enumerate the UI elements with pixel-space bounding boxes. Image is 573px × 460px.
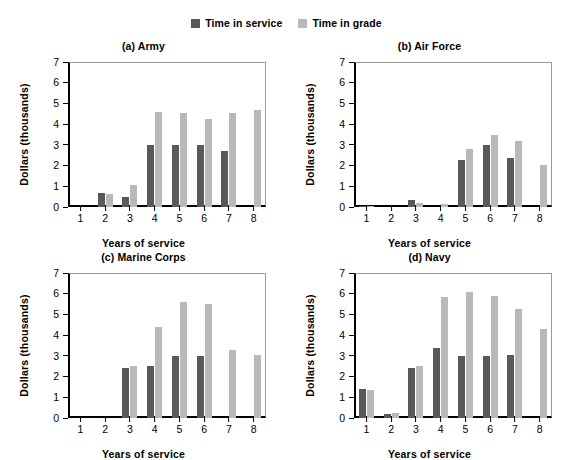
y-tick-mark (349, 124, 354, 125)
x-axis-tick: 6 (487, 207, 493, 224)
x-axis-tick: 2 (388, 207, 394, 224)
x-axis-tick: 6 (201, 207, 207, 224)
x-axis-tick: 2 (388, 418, 394, 435)
x-axis-tick: 7 (512, 418, 518, 435)
bar (254, 110, 261, 207)
x-tick-label: 5 (462, 213, 468, 224)
bar (359, 389, 366, 418)
x-tick-label: 4 (438, 424, 444, 435)
y-tick-label: 1 (53, 181, 63, 192)
x-axis-tick: 5 (176, 418, 182, 435)
x-tick-mark (539, 207, 540, 211)
y-tick-label: 1 (339, 181, 349, 192)
bar (540, 165, 547, 207)
x-axis-label: Years of service (286, 448, 573, 460)
panel-army: (a) ArmyDollars (thousands)0123456712345… (0, 40, 287, 245)
x-tick-mark (154, 418, 155, 422)
y-axis-label: Dollars (thousands) (18, 62, 30, 207)
x-tick-mark (415, 207, 416, 211)
y-tick-mark (63, 273, 68, 274)
y-tick-mark (349, 82, 354, 83)
x-tick-mark (391, 207, 392, 211)
y-tick-label: 5 (339, 98, 349, 109)
x-tick-mark (129, 418, 130, 422)
y-tick-mark (349, 62, 354, 63)
x-tick-mark (80, 418, 81, 422)
y-tick-label: 5 (53, 98, 63, 109)
chart-legend: Time in service Time in grade (0, 18, 573, 29)
bar (416, 366, 423, 418)
x-tick-mark (465, 418, 466, 422)
x-tick-mark (415, 418, 416, 422)
y-tick-label: 1 (339, 392, 349, 403)
y-tick-mark (349, 355, 354, 356)
bar (433, 348, 440, 418)
x-tick-mark (539, 418, 540, 422)
x-axis-tick: 6 (201, 418, 207, 435)
y-axis-label: Dollars (thousands) (304, 273, 316, 418)
x-axis-tick: 4 (438, 207, 444, 224)
bar (441, 204, 448, 207)
y-tick-label: 0 (339, 413, 349, 424)
x-tick-mark (179, 418, 180, 422)
x-tick-mark (253, 418, 254, 422)
bar (515, 141, 522, 207)
bar (221, 151, 228, 207)
x-tick-label: 4 (152, 213, 158, 224)
x-tick-mark (465, 207, 466, 211)
bar (180, 302, 187, 418)
legend-swatch-icon (298, 19, 307, 28)
legend-swatch-icon (191, 19, 200, 28)
x-axis-tick: 5 (462, 207, 468, 224)
y-tick-mark (349, 293, 354, 294)
bar (458, 160, 465, 207)
y-tick-mark (63, 397, 68, 398)
bar (122, 197, 129, 207)
bar (515, 309, 522, 418)
legend-label: Time in service (205, 18, 282, 29)
y-tick-label: 3 (53, 140, 63, 151)
x-tick-label: 8 (251, 424, 257, 435)
bar (197, 356, 204, 418)
y-tick-label: 3 (339, 351, 349, 362)
bar (466, 149, 473, 207)
y-tick-label: 2 (339, 371, 349, 382)
x-tick-label: 3 (127, 213, 133, 224)
panel-title: (d) Navy (286, 251, 573, 263)
x-tick-mark (490, 207, 491, 211)
y-tick-mark (349, 397, 354, 398)
x-axis-tick: 8 (251, 207, 257, 224)
x-tick-label: 3 (413, 213, 419, 224)
y-tick-mark (63, 418, 68, 419)
x-axis-label: Years of service (0, 237, 287, 249)
bar (483, 356, 490, 418)
y-tick-label: 0 (53, 202, 63, 213)
x-axis-tick: 8 (537, 418, 543, 435)
y-tick-mark (63, 103, 68, 104)
x-tick-mark (228, 207, 229, 211)
x-tick-mark (366, 418, 367, 422)
bar (466, 292, 473, 418)
x-axis-tick: 1 (363, 418, 369, 435)
y-tick-label: 1 (53, 392, 63, 403)
x-tick-label: 2 (388, 424, 394, 435)
y-axis-label: Dollars (thousands) (18, 273, 30, 418)
y-tick-mark (63, 144, 68, 145)
y-tick-label: 4 (339, 330, 349, 341)
bar (408, 368, 415, 418)
plot-area: 0123456712345678 (68, 273, 266, 418)
y-tick-mark (63, 207, 68, 208)
x-axis-tick: 1 (77, 207, 83, 224)
panel-title: (a) Army (0, 40, 287, 52)
bar (384, 414, 391, 418)
bar (367, 390, 374, 418)
x-axis-tick: 3 (413, 418, 419, 435)
x-axis-tick: 3 (413, 207, 419, 224)
bar (147, 145, 154, 207)
y-tick-mark (63, 82, 68, 83)
legend-item-time-in-service: Time in service (191, 18, 282, 29)
x-tick-label: 5 (176, 424, 182, 435)
plot-area: 0123456712345678 (68, 62, 266, 207)
y-tick-mark (63, 186, 68, 187)
